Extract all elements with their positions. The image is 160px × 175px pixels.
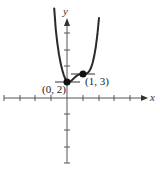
x-axis: x [4,91,155,103]
function-curve [54,8,99,82]
y-axis-arrow-icon [64,18,70,26]
point-label-0-2: (0, 2) [42,83,66,96]
x-axis-label: x [149,91,155,103]
function-graph: x y (0, 2) (1, 3) [0,0,160,175]
x-axis-arrow-icon [141,95,148,101]
y-axis-label: y [62,5,68,17]
point-label-1-3: (1, 3) [85,75,109,88]
